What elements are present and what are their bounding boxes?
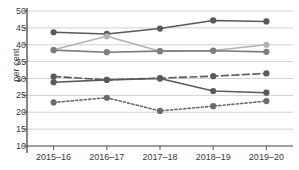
data-point [263, 42, 269, 48]
x-tick-label: 2016–17 [89, 152, 124, 162]
x-tick-label: 2017–18 [142, 152, 177, 162]
data-point [263, 70, 269, 76]
data-point [263, 49, 269, 55]
data-point [157, 75, 163, 81]
data-point [210, 17, 216, 23]
line-chart: per cent 101520253035404550 2015–162016–… [0, 0, 299, 170]
data-point [51, 99, 57, 105]
data-point [51, 73, 57, 79]
data-point [263, 90, 269, 96]
data-point [104, 77, 110, 83]
data-point [210, 73, 216, 79]
data-point [210, 88, 216, 94]
data-point [210, 103, 216, 109]
data-point [263, 98, 269, 104]
data-point [104, 49, 110, 55]
data-point [263, 18, 269, 24]
plot-area [0, 0, 299, 170]
data-point [104, 95, 110, 101]
series-1 [51, 17, 270, 37]
x-tick-label: 2019–20 [249, 152, 284, 162]
data-point [157, 108, 163, 114]
data-point [157, 48, 163, 54]
x-tick-label: 2018–19 [196, 152, 231, 162]
data-point [51, 79, 57, 85]
data-point [157, 25, 163, 31]
x-tick-label: 2015–16 [36, 152, 71, 162]
data-point [51, 47, 57, 53]
data-point [104, 33, 110, 39]
series-6 [51, 95, 270, 114]
data-point [210, 48, 216, 54]
data-point [51, 29, 57, 35]
